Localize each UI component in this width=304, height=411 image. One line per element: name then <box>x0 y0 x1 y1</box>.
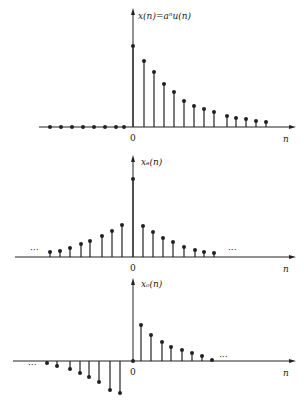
sample-dot <box>193 248 197 252</box>
origin-label: 0 <box>130 367 136 377</box>
stem-sample <box>182 99 186 127</box>
sample-dot <box>120 223 124 227</box>
sample-dot <box>202 107 206 111</box>
sample-dot <box>78 371 82 375</box>
amplitude-axis-arrow-icon <box>131 278 135 285</box>
stem-sample <box>141 224 145 257</box>
stem-sample <box>225 114 229 127</box>
stem-sample <box>254 119 258 127</box>
stem-sample <box>131 177 135 257</box>
y-axis-label: xₒ(n) <box>141 279 163 289</box>
sample-dot <box>202 250 206 254</box>
stem-sample <box>264 120 268 127</box>
continuation-ellipsis: ··· <box>228 245 237 255</box>
sample-dot <box>151 230 155 234</box>
plot-odd-part: xₒ(n)0n······ <box>13 278 296 395</box>
sample-dot <box>182 245 186 249</box>
stem-sample <box>162 82 166 127</box>
stem-sample <box>234 116 238 127</box>
stem-sample <box>78 361 82 375</box>
sample-dot <box>103 125 107 129</box>
stem-sample <box>192 104 196 127</box>
sample-dot <box>210 358 214 362</box>
stem-sample <box>120 223 124 257</box>
sample-dot <box>48 125 52 129</box>
sample-dot <box>68 246 72 250</box>
stem-sample <box>131 359 135 363</box>
stem-sample <box>200 354 204 361</box>
sample-dot <box>118 391 122 395</box>
stem-sample <box>161 236 165 257</box>
sample-dot <box>190 351 194 355</box>
stem-sample <box>92 125 96 129</box>
sample-dot <box>68 367 72 371</box>
n-axis-arrow-icon <box>289 359 296 363</box>
stem-sample <box>108 361 112 392</box>
stem-sample <box>193 248 197 257</box>
stem-sample <box>139 323 143 361</box>
stem-sample <box>97 361 101 384</box>
stem-sample <box>88 239 92 257</box>
sample-dot <box>131 177 135 181</box>
stem-sample <box>171 240 175 257</box>
sample-dot <box>152 70 156 74</box>
sample-dot <box>48 250 52 254</box>
sample-dot <box>161 236 165 240</box>
stem-sample <box>122 125 126 129</box>
sample-dot <box>254 119 258 123</box>
stem-sample <box>152 70 156 127</box>
stem-sample <box>180 348 184 361</box>
origin-label: 0 <box>130 263 136 273</box>
sample-dot <box>234 116 238 120</box>
stem-sample <box>59 125 63 129</box>
stem-sample <box>100 234 104 257</box>
n-axis-arrow-icon <box>289 255 296 259</box>
sample-dot <box>212 110 216 114</box>
stem-sample <box>103 125 107 129</box>
stem-sample <box>182 245 186 257</box>
amplitude-axis-arrow-icon <box>131 155 135 162</box>
sample-dot <box>200 354 204 358</box>
sample-dot <box>59 125 63 129</box>
stem-sample <box>190 351 194 361</box>
sample-dot <box>225 114 229 118</box>
sample-dot <box>180 348 184 352</box>
amplitude-axis-arrow-icon <box>131 8 135 15</box>
continuation-ellipsis: ··· <box>30 245 39 255</box>
stem-sample <box>55 361 59 368</box>
stem-sample <box>45 361 49 365</box>
sample-dot <box>172 90 176 94</box>
sample-dot <box>171 240 175 244</box>
sample-dot <box>169 345 173 349</box>
stem-sample <box>48 125 52 129</box>
sample-dot <box>264 120 268 124</box>
sample-dot <box>88 239 92 243</box>
stem-sample <box>142 59 146 127</box>
sample-dot <box>97 380 101 384</box>
sample-dot <box>192 104 196 108</box>
sample-dot <box>139 323 143 327</box>
sample-dot <box>122 125 126 129</box>
plot-even-part: xₑ(n)0n······ <box>15 155 296 274</box>
continuation-ellipsis: ··· <box>219 352 228 362</box>
stem-sample <box>70 125 74 129</box>
sample-dot <box>70 125 74 129</box>
stem-sample <box>212 251 216 257</box>
x-axis-label: n <box>283 134 289 144</box>
stem-sample <box>110 229 114 257</box>
sample-dot <box>131 359 135 363</box>
sample-dot <box>92 125 96 129</box>
sample-dot <box>142 59 146 63</box>
y-axis-label: xₑ(n) <box>141 157 163 167</box>
stem-sample <box>169 345 173 361</box>
sample-dot <box>58 249 62 253</box>
signal-decomposition-figure: x(n)=aⁿu(n)0n xₑ(n)0n······ xₒ(n)0n·····… <box>0 0 304 411</box>
stem-sample <box>87 361 91 379</box>
x-axis-label: n <box>283 368 289 378</box>
sample-dot <box>108 388 112 392</box>
sample-dot <box>160 340 164 344</box>
stem-sample <box>81 125 85 129</box>
stem-sample <box>68 361 72 371</box>
stem-sample <box>212 110 216 127</box>
stem-sample <box>202 250 206 257</box>
